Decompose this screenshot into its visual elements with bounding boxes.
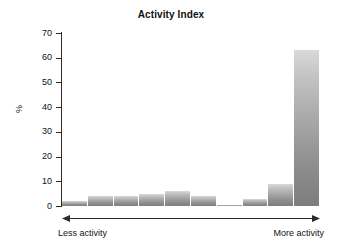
y-axis-tick-label-text: 30 <box>28 127 52 136</box>
y-axis-tick-label-text: 40 <box>28 103 52 112</box>
y-axis-tick-label: 70 <box>24 29 52 38</box>
y-axis-tick <box>56 132 61 133</box>
y-axis-tick-label: 10 <box>24 177 52 186</box>
y-axis-tick <box>56 58 61 59</box>
chart-bar <box>114 196 140 206</box>
chart-bar <box>217 205 243 206</box>
y-axis-tick-label-text: 20 <box>28 152 52 161</box>
x-axis-right-label: More activity <box>273 228 324 238</box>
y-axis-tick-label-text: 60 <box>28 53 52 62</box>
y-axis-tick <box>56 157 61 158</box>
x-axis-arrow-icon <box>62 214 320 223</box>
chart-bar <box>191 196 217 206</box>
y-axis-tick <box>56 82 61 83</box>
y-axis-tick-label: 60 <box>24 53 52 62</box>
y-axis-tick-label: 50 <box>24 78 52 87</box>
plot-area <box>62 33 320 206</box>
y-axis-tick <box>56 206 61 207</box>
chart-bar <box>139 194 165 206</box>
y-axis-label: % <box>14 105 24 113</box>
y-axis-tick-label-text: 50 <box>28 78 52 87</box>
y-axis-tick <box>56 181 61 182</box>
y-axis-tick <box>56 107 61 108</box>
y-axis-tick-label: 0 <box>24 202 52 211</box>
chart-bar <box>243 199 269 206</box>
page-title: Activity Index <box>0 9 342 20</box>
chart-bar <box>294 50 320 206</box>
y-axis-tick-label-text: 70 <box>28 29 52 38</box>
y-axis-tick-label: 30 <box>24 127 52 136</box>
x-axis-left-label: Less activity <box>58 228 107 238</box>
chart-bar <box>88 196 114 206</box>
y-axis-tick-label: 40 <box>24 103 52 112</box>
chart-bar <box>165 191 191 206</box>
y-axis-tick-label-text: 10 <box>28 177 52 186</box>
y-axis-tick-label-text: 0 <box>28 202 52 211</box>
chart-bar <box>268 184 294 206</box>
y-axis-tick <box>56 33 61 34</box>
chart-figure: Activity Index % 010203040506070 Less ac… <box>0 0 342 250</box>
chart-bar <box>62 201 88 206</box>
y-axis-tick-label: 20 <box>24 152 52 161</box>
